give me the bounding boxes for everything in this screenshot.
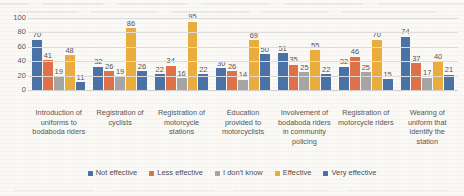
category-label-7: Wearing of uniform that identify the sta…	[397, 108, 458, 156]
bar-slot: 22	[155, 18, 165, 90]
legend-item[interactable]: Not effective	[88, 169, 138, 177]
bar-slot: 22	[321, 18, 331, 90]
category-label-6: Registration of motorcycle riders	[335, 108, 396, 156]
legend-label: Not effective	[96, 169, 138, 177]
bar-value-label: 32	[340, 58, 348, 66]
bar-slot: 15	[383, 18, 393, 90]
bar[interactable]: 17	[422, 78, 432, 90]
bar-slot: 70	[32, 18, 42, 90]
bar-slot: 34	[166, 18, 176, 90]
legend-label: I don't know	[223, 169, 263, 177]
bar[interactable]: 86	[126, 28, 136, 90]
bar-slot: 69	[249, 18, 259, 90]
bar[interactable]: 26	[137, 71, 147, 90]
bar[interactable]: 34	[166, 66, 176, 90]
bar-slot: 14	[238, 18, 248, 90]
gridline	[28, 47, 458, 48]
y-axis-tick-label: 0	[22, 86, 26, 94]
grouped-bar-chart: 020406080100 704119481132261986262234169…	[0, 0, 464, 196]
bar[interactable]: 74	[401, 37, 411, 90]
legend-item[interactable]: Less effective	[149, 169, 203, 177]
bar-slot: 37	[411, 18, 421, 90]
bar[interactable]: 51	[278, 53, 288, 90]
bar[interactable]: 32	[339, 67, 349, 90]
bar-group: 3026146950	[212, 18, 273, 90]
legend-color-swatch	[149, 171, 154, 176]
bar[interactable]: 32	[93, 67, 103, 90]
bar-group: 2234169522	[151, 18, 212, 90]
bar-slot: 48	[65, 18, 75, 90]
bar-value-label: 32	[94, 58, 102, 66]
bar-slot: 55	[310, 18, 320, 90]
bar[interactable]: 15	[383, 79, 393, 90]
bar[interactable]: 19	[54, 76, 64, 90]
bar-slot: 46	[350, 18, 360, 90]
legend-item[interactable]: Very effective	[323, 169, 376, 177]
y-axis: 020406080100	[4, 18, 26, 90]
bar-group: 3226198626	[89, 18, 150, 90]
legend-label: Effective	[283, 169, 312, 177]
bar-value-label: 26	[138, 63, 146, 71]
y-axis-tick-label: 40	[17, 57, 26, 65]
bar-value-label: 95	[188, 13, 196, 21]
y-axis-tick-label: 60	[17, 43, 26, 51]
bar-slot: 26	[104, 18, 114, 90]
bar[interactable]: 21	[444, 75, 454, 90]
bar-slot: 51	[278, 18, 288, 90]
bar[interactable]: 14	[238, 80, 248, 90]
bar-value-label: 22	[199, 66, 207, 74]
plot-area: 7041194811322619862622341695223026146950…	[28, 18, 458, 91]
bar[interactable]: 16	[177, 78, 187, 90]
bar-slot: 25	[299, 18, 309, 90]
bar-slot: 40	[433, 18, 443, 90]
bar-value-label: 35	[289, 56, 297, 64]
legend-label: Very effective	[331, 169, 376, 177]
bar-slot: 26	[227, 18, 237, 90]
bar-value-label: 15	[383, 71, 391, 79]
bar-slot: 19	[54, 18, 64, 90]
bar-value-label: 26	[105, 63, 113, 71]
bar-value-label: 19	[116, 68, 124, 76]
legend-color-swatch	[275, 171, 280, 176]
bar-slot: 11	[76, 18, 86, 90]
bar[interactable]: 50	[260, 54, 270, 90]
bar-value-label: 55	[311, 42, 319, 50]
bar[interactable]: 26	[104, 71, 114, 90]
y-axis-tick-label: 80	[17, 29, 26, 37]
gridline	[28, 61, 458, 62]
gridline	[28, 18, 458, 19]
category-label-3: Registration of motorcycle stations	[151, 108, 212, 156]
legend-color-swatch	[323, 171, 328, 176]
y-axis-tick-label: 20	[17, 72, 26, 80]
bar-slot: 25	[361, 18, 371, 90]
bar-group: 7437174021	[397, 18, 458, 90]
legend-color-swatch	[88, 171, 93, 176]
chart-legend: Not effectiveLess effectiveI don't knowE…	[0, 166, 464, 180]
bar-slot: 16	[177, 18, 187, 90]
plot-area-wrapper: 020406080100 704119481132261986262234169…	[0, 18, 464, 106]
category-label-5: Involvement of bodaboda riders in commun…	[274, 108, 335, 156]
bar[interactable]: 11	[76, 82, 86, 90]
bar[interactable]: 37	[411, 63, 421, 90]
legend-item[interactable]: I don't know	[215, 169, 263, 177]
bar[interactable]: 55	[310, 50, 320, 90]
bar-group: 7041194811	[28, 18, 89, 90]
bar-slot: 21	[444, 18, 454, 90]
bar-value-label: 40	[434, 53, 442, 61]
bar-slot: 50	[260, 18, 270, 90]
bar[interactable]: 19	[115, 76, 125, 90]
bar-slot: 70	[372, 18, 382, 90]
bar[interactable]: 26	[227, 71, 237, 90]
legend-item[interactable]: Effective	[275, 169, 312, 177]
legend-color-swatch	[215, 171, 220, 176]
gridline	[28, 76, 458, 77]
legend-label: Less effective	[157, 169, 203, 177]
bar-value-label: 48	[65, 47, 73, 55]
category-label-4: Education provided to motorcyclists	[212, 108, 273, 156]
bar-slot: 19	[115, 18, 125, 90]
bar[interactable]: 30	[216, 68, 226, 90]
bar[interactable]: 35	[289, 65, 299, 90]
bar-value-label: 86	[127, 20, 135, 28]
bar-value-label: 21	[445, 66, 453, 74]
bar-slot: 74	[401, 18, 411, 90]
